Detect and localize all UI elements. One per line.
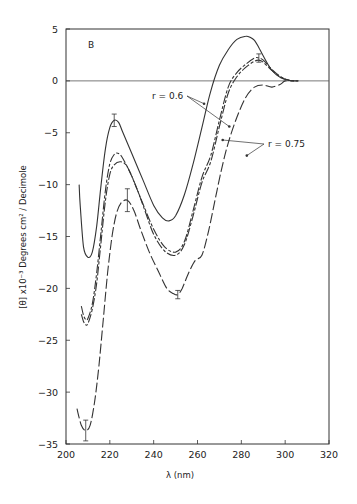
y-tick-label: −30 — [38, 387, 58, 398]
annotation-r-0.6: r = 0.6 — [152, 91, 184, 101]
y-tick-label: 5 — [52, 24, 58, 35]
y-tick-label: −35 — [38, 439, 58, 450]
curve-series_1 — [79, 36, 296, 257]
data-series — [77, 36, 298, 430]
x-tick-label: 220 — [101, 449, 119, 460]
curve-series_4 — [77, 81, 294, 431]
y-tick-label: −5 — [44, 127, 58, 138]
error-bars — [83, 54, 261, 441]
x-tick-label: 240 — [145, 449, 163, 460]
annotations: r = 0.6r = 0.75 — [152, 91, 305, 157]
x-tick-label: 280 — [232, 449, 250, 460]
y-tick-label: −25 — [38, 335, 58, 346]
x-tick-label: 320 — [320, 449, 338, 460]
panel-label: B — [88, 40, 94, 50]
x-tick-label: 260 — [188, 449, 206, 460]
y-tick-label: −20 — [38, 283, 58, 294]
y-axis-title: [θ] x10⁻³ Degrees cm² / Decimole — [18, 165, 28, 309]
plot-frame — [66, 29, 329, 444]
curve-series_2 — [81, 57, 298, 320]
x-axis-title: λ (nm) — [166, 470, 194, 480]
x-tick-label: 300 — [276, 449, 294, 460]
curve-series_3 — [81, 60, 298, 325]
x-tick-label: 200 — [57, 449, 75, 460]
y-tick-label: −15 — [38, 231, 58, 242]
y-tick-label: 0 — [52, 75, 58, 86]
y-tick-label: −10 — [38, 179, 58, 190]
cd-spectrum-chart: 50−5−10−15−20−25−30−35 20022024026028030… — [0, 0, 357, 504]
y-axis: 50−5−10−15−20−25−30−35 — [38, 24, 70, 450]
x-axis: 200220240260280300320 — [57, 440, 338, 460]
annotation-r-0.75: r = 0.75 — [268, 139, 305, 149]
